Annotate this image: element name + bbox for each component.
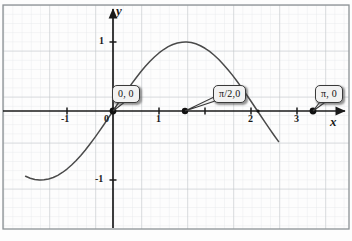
x-tick-label-0: 0 <box>104 113 109 124</box>
plot-canvas <box>0 0 352 241</box>
x-axis-label: x <box>330 114 337 130</box>
callout-pi-label: π, 0 <box>321 89 337 99</box>
x-tick-label-3: 3 <box>294 113 299 124</box>
sine-graph-figure: 0, 0 π/2,0 π, 0 y x -1 0 1 2 3 1 -1 <box>0 0 352 241</box>
callout-half-pi-label: π/2,0 <box>219 89 240 99</box>
callout-pi[interactable]: π, 0 <box>315 85 343 103</box>
y-tick-label-neg1: -1 <box>95 173 103 184</box>
x-tick-label-1: 1 <box>156 113 161 124</box>
callout-half-pi[interactable]: π/2,0 <box>213 85 246 103</box>
y-tick-label-1: 1 <box>99 35 104 46</box>
callout-origin[interactable]: 0, 0 <box>112 85 140 103</box>
callout-origin-label: 0, 0 <box>118 89 134 99</box>
y-axis-label: y <box>116 3 122 19</box>
x-tick-label-2: 2 <box>248 113 253 124</box>
x-tick-label-neg1: -1 <box>61 113 69 124</box>
